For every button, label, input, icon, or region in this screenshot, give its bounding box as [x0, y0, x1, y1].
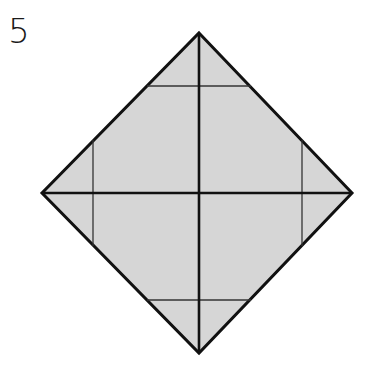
folding-diagram: [0, 0, 381, 371]
